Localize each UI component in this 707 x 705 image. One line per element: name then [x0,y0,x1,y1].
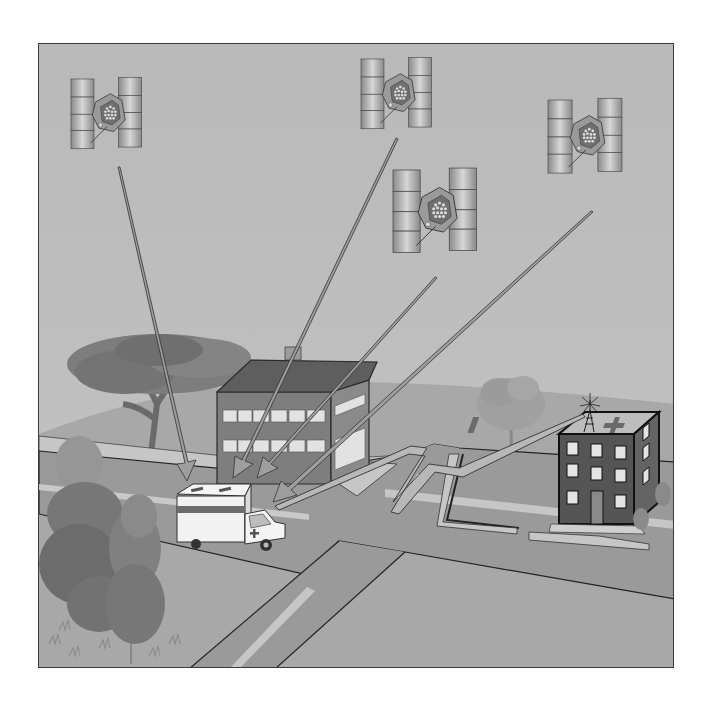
gps-scene [39,44,674,668]
illustration-frame: GPS satellites transmitting signals to a… [38,43,674,668]
